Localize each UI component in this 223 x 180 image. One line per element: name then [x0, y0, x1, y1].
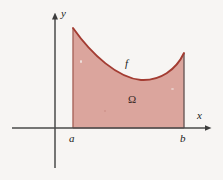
x-axis-label: x	[197, 110, 202, 121]
upper-bound-label-b: b	[180, 133, 186, 144]
y-axis-label: y	[61, 8, 66, 19]
figure-canvas	[0, 0, 223, 180]
integral-region-figure: y x a b f Ω	[0, 0, 223, 180]
curve-label-f: f	[125, 58, 128, 69]
region-label-omega: Ω	[128, 94, 136, 105]
lower-bound-label-a: a	[69, 133, 75, 144]
